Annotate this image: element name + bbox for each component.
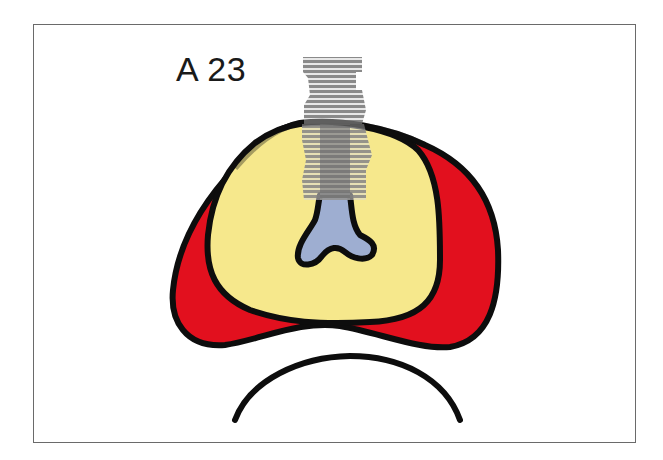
implant-core-gray — [320, 124, 350, 200]
implant-head-gray — [303, 57, 366, 124]
diagram-canvas — [0, 0, 663, 460]
lower-arc — [235, 356, 460, 420]
